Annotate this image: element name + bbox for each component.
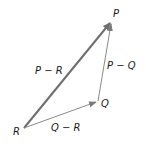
edge-label-p-minus-r: P − R <box>35 65 63 76</box>
point-label-q: Q <box>101 98 109 109</box>
point-label-p: P <box>113 8 120 19</box>
point-label-r: R <box>13 126 20 137</box>
edge-label-p-minus-q: P − Q <box>107 60 136 71</box>
edge-label-q-minus-r: Q − R <box>51 122 81 133</box>
vector-diagram: P Q R P − R P − Q Q − R <box>0 0 146 149</box>
